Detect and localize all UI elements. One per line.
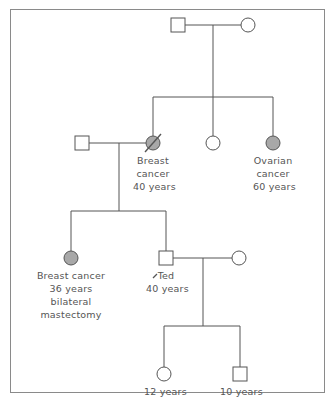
gen4-daughter-circle [157, 367, 171, 381]
gen1-father-square [171, 18, 185, 32]
gen2-daughter3-label: Ovarian cancer 60 years [253, 154, 293, 193]
pedigree-chart [0, 0, 333, 416]
gen3-spouse-circle [232, 251, 246, 265]
gen3-proband-label: Ted 40 years [146, 269, 186, 295]
gen2-spouse-square [75, 136, 89, 150]
gen1-mother-circle [241, 18, 255, 32]
gen4-son-label: 10 years [220, 385, 260, 398]
gen2-daughter3-affected-circle [266, 136, 280, 150]
gen2-daughter2-circle [206, 136, 220, 150]
gen3-daughter-affected-circle [64, 251, 78, 265]
gen3-proband-square [159, 251, 173, 265]
gen4-son-square [233, 367, 247, 381]
gen3-daughter-label: Breast cancer 36 years bilateral mastect… [31, 269, 111, 321]
gen2-daughter1-label: Breast cancer 40 years [133, 154, 173, 193]
gen4-daughter-label: 12 years [144, 385, 184, 398]
